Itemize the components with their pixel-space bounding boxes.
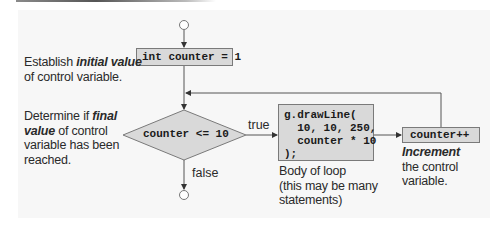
- init-annotation: Establish initial value of control varia…: [24, 55, 142, 84]
- condition-code: counter <= 10: [143, 128, 229, 140]
- init-code: int counter = 1: [142, 51, 241, 63]
- body-code-line-4: );: [284, 148, 297, 160]
- false-edge-label: false: [192, 166, 218, 180]
- body-annotation: Body of loop (this may be many statement…: [279, 164, 378, 208]
- increment-box: counter++: [402, 127, 480, 143]
- end-node-icon: [180, 191, 189, 200]
- condition-annotation: Determine if final value of control vari…: [24, 109, 119, 167]
- increment-annotation: Increment the control variable.: [402, 145, 460, 189]
- start-node-icon: [180, 21, 189, 30]
- body-code-line-1: g.drawLine(: [284, 109, 357, 121]
- increment-code: counter++: [410, 129, 469, 141]
- init-box: int counter = 1: [136, 48, 233, 66]
- true-edge-label: true: [248, 118, 270, 132]
- loop-body-box: g.drawLine( 10, 10, 250, counter * 10 );: [278, 104, 374, 161]
- body-code-line-2: 10, 10, 250,: [284, 122, 376, 134]
- body-code-line-3: counter * 10: [284, 135, 376, 147]
